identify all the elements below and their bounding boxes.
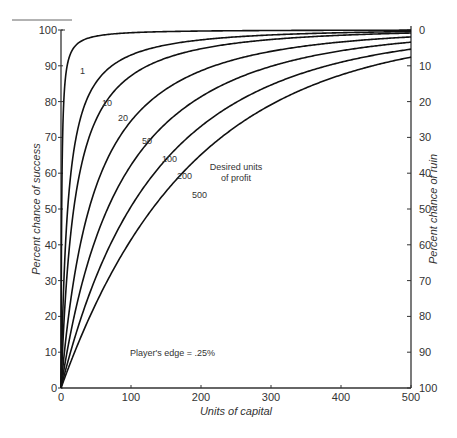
curve-label-20: 20 (118, 113, 128, 123)
gamblers-ruin-chart: 0102030405060708090100100908070605040302… (0, 0, 457, 438)
x-tick-label: 300 (262, 391, 280, 403)
y2-tick-label: 100 (419, 382, 437, 394)
y2-tick-label: 20 (419, 96, 431, 108)
y-tick-label: 80 (45, 96, 57, 108)
curve-label-200: 200 (177, 171, 192, 181)
legend-title-line2: of profit (221, 173, 252, 183)
legend-title-line1: Desired units (210, 162, 263, 172)
curve-50 (61, 37, 411, 388)
y-tick-label: 30 (45, 275, 57, 287)
y2-axis-title: Percent chance of ruin (427, 154, 439, 264)
y2-tick-label: 0 (419, 24, 425, 36)
y-tick-label: 40 (45, 239, 57, 251)
y-tick-label: 90 (45, 60, 57, 72)
curve-label-500: 500 (192, 190, 207, 200)
y2-tick-label: 90 (419, 346, 431, 358)
curves (61, 30, 411, 388)
y-tick-label: 10 (45, 346, 57, 358)
labels: 1102050100200500Desired unitsof profitPl… (80, 66, 263, 358)
x-tick-label: 100 (122, 391, 140, 403)
y-tick-label: 50 (45, 203, 57, 215)
x-tick-label: 400 (332, 391, 350, 403)
y2-tick-label: 80 (419, 310, 431, 322)
curve-100 (61, 42, 411, 388)
curve-label-10: 10 (102, 98, 112, 108)
y-tick-label: 20 (45, 310, 57, 322)
curve-500 (61, 57, 411, 388)
curve-label-100: 100 (162, 154, 177, 164)
x-tick-label: 200 (192, 391, 210, 403)
curve-200 (61, 49, 411, 388)
x-axis-title: Units of capital (200, 405, 273, 417)
x-tick-label: 500 (402, 391, 420, 403)
y2-tick-label: 30 (419, 131, 431, 143)
curve-10 (61, 32, 411, 388)
curve-label-50: 50 (142, 136, 152, 146)
curve-1 (61, 30, 411, 388)
y-tick-label: 60 (45, 167, 57, 179)
curve-20 (61, 33, 411, 388)
y2-tick-label: 10 (419, 60, 431, 72)
x-tick-label: 0 (58, 391, 64, 403)
player-edge-annotation: Player's edge = .25% (130, 348, 215, 358)
y-tick-label: 100 (39, 24, 57, 36)
axes: 0102030405060708090100100908070605040302… (30, 24, 439, 417)
y-tick-label: 0 (51, 382, 57, 394)
y-tick-label: 70 (45, 131, 57, 143)
y2-tick-label: 70 (419, 275, 431, 287)
curve-label-1: 1 (80, 66, 85, 76)
y-axis-title: Percent chance of success (30, 143, 42, 275)
